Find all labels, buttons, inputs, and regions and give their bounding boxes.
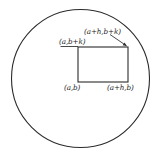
vertex-label-bottom-right: (a+h,b)	[107, 84, 134, 91]
vertex-label-bottom-left: (a,b)	[64, 84, 80, 91]
vertex-label-top-right: (a+h,b+k)	[84, 28, 121, 35]
leader-arrow-top-right-corner	[110, 35, 127, 46]
figure-canvas: (a+h,b+k) (a,b+k) (a,b) (a+h,b)	[0, 0, 159, 157]
diagram-svg	[0, 0, 159, 157]
vertex-label-top-left: (a,b+k)	[59, 38, 85, 45]
region-boundary-circle	[12, 10, 150, 148]
inscribed-rectangle	[78, 47, 128, 82]
